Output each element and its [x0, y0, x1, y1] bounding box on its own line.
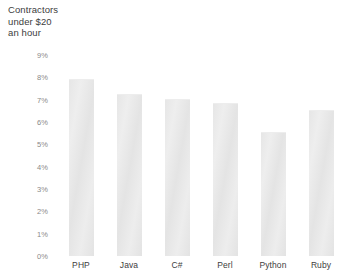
bar: [213, 103, 238, 256]
x-axis-category-label: PHP: [57, 260, 105, 270]
bar-group: PHP: [57, 0, 105, 280]
bar-group: C#: [153, 0, 201, 280]
y-axis-tick-label: 1%: [18, 229, 48, 238]
plot-area: 9%8%7%6%5%4%3%2%1%0% PHPJavaC#PerlPython…: [0, 0, 351, 280]
y-axis-tick-label: 5%: [18, 140, 48, 149]
bar: [261, 132, 286, 256]
bar-chart: Contractors under $20 an hour 9%8%7%6%5%…: [0, 0, 351, 280]
bar-group: Python: [249, 0, 297, 280]
y-axis-tick-label: 0%: [18, 252, 48, 261]
bar-group: Java: [105, 0, 153, 280]
bar-group: Ruby: [297, 0, 345, 280]
bar: [309, 110, 334, 256]
bar: [69, 79, 94, 256]
x-axis-category-label: Python: [249, 260, 297, 270]
y-axis-tick-label: 7%: [18, 95, 48, 104]
y-axis-tick-label: 9%: [18, 51, 48, 60]
x-axis-category-label: Java: [105, 260, 153, 270]
x-axis-category-label: Ruby: [297, 260, 345, 270]
bar-series: PHPJavaC#PerlPythonRuby: [57, 0, 345, 280]
y-axis-tick-label: 2%: [18, 207, 48, 216]
y-axis-tick-label: 6%: [18, 118, 48, 127]
y-axis: 9%8%7%6%5%4%3%2%1%0%: [18, 0, 48, 280]
bar: [165, 99, 190, 256]
y-axis-tick-label: 8%: [18, 73, 48, 82]
y-axis-tick-label: 3%: [18, 185, 48, 194]
y-axis-tick-label: 4%: [18, 162, 48, 171]
x-axis-category-label: C#: [153, 260, 201, 270]
x-axis-category-label: Perl: [201, 260, 249, 270]
bar: [117, 94, 142, 256]
bar-group: Perl: [201, 0, 249, 280]
